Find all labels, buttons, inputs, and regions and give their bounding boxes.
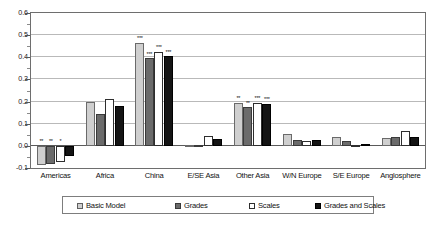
bar: [105, 99, 114, 146]
bar-group: [277, 13, 326, 168]
significance-marker: *: [52, 139, 68, 144]
bar: [332, 137, 341, 146]
bar: [410, 137, 419, 146]
bar: [145, 58, 154, 145]
x-axis-label: Africa: [80, 170, 129, 181]
bar: [135, 43, 144, 146]
bar: [65, 146, 74, 157]
bar: [46, 146, 55, 164]
bar-chart: 0.60.50.40.30.20.10.0-0.1 **************…: [0, 0, 435, 229]
legend-label: Grades and Scales: [324, 200, 385, 211]
legend-swatch-icon: [175, 203, 181, 209]
bar: [302, 141, 311, 145]
legend-item: Basic Model: [77, 200, 125, 211]
bar-group: *****: [31, 13, 80, 168]
x-axis-label: Americas: [31, 170, 80, 181]
bar: [243, 107, 252, 146]
bar-group: [179, 13, 228, 168]
x-axis-label: E/SE Asia: [179, 170, 228, 181]
bar: [213, 139, 222, 146]
legend-label: Scales: [258, 200, 280, 211]
bar: [234, 103, 243, 146]
bar-groups: ***************************: [31, 13, 425, 168]
legend-label: Grades: [184, 200, 208, 211]
bar: [342, 141, 351, 145]
legend-item: Scales: [249, 200, 280, 211]
bar: [164, 56, 173, 146]
x-axis-label: S/E Europe: [327, 170, 376, 181]
bar: [37, 146, 46, 165]
legend-swatch-icon: [77, 203, 83, 209]
bar: [204, 136, 213, 146]
x-axis-labels: AmericasAfricaChinaE/SE AsiaOther AsiaW/…: [31, 170, 425, 184]
bar: [361, 144, 370, 146]
bar: [86, 102, 95, 146]
x-axis-label: Other Asia: [228, 170, 277, 181]
chart-legend: Basic ModelGradesScalesGrades and Scales: [62, 196, 374, 214]
bar: [115, 106, 124, 146]
bar-group: [376, 13, 425, 168]
x-axis-label: W/N Europe: [277, 170, 326, 181]
legend-item: Grades and Scales: [315, 200, 385, 211]
legend-item: Grades: [175, 200, 208, 211]
bar: [194, 145, 203, 147]
bar: [96, 114, 105, 146]
bar: [391, 137, 400, 146]
bar: [185, 145, 194, 147]
significance-marker: ***: [160, 50, 176, 55]
bar: [253, 103, 262, 146]
significance-marker: ***: [259, 97, 275, 102]
legend-swatch-icon: [249, 203, 255, 209]
x-axis-label: China: [130, 170, 179, 181]
bar-group: [327, 13, 376, 168]
significance-marker: ***: [132, 36, 148, 41]
bar-group: **********: [228, 13, 277, 168]
x-axis-label: Anglosphere: [376, 170, 425, 181]
bar: [293, 140, 302, 146]
bar: [262, 104, 271, 146]
legend-label: Basic Model: [86, 200, 125, 211]
bar: [154, 52, 163, 146]
bar-group: ************: [130, 13, 179, 168]
bar: [382, 138, 391, 146]
bar: [401, 131, 410, 145]
bar: [312, 140, 321, 146]
bar: [351, 145, 360, 147]
bar: [56, 146, 65, 163]
bar: [283, 134, 292, 146]
legend-swatch-icon: [315, 203, 321, 209]
bar-group: [80, 13, 129, 168]
